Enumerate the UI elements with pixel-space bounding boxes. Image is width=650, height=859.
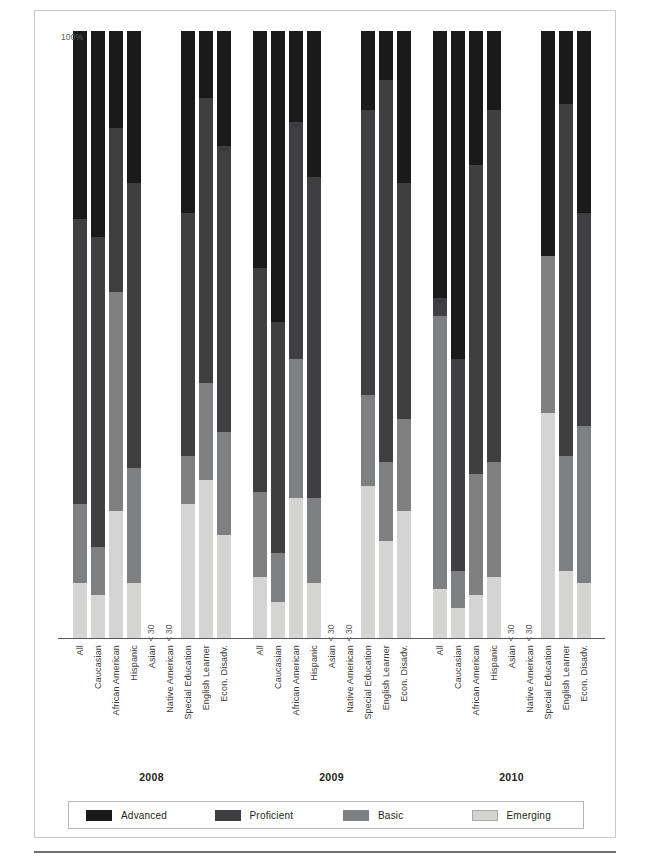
stacked-bar[interactable] [271, 31, 285, 638]
bar-segment-basic[interactable] [271, 553, 285, 602]
stacked-bar[interactable] [487, 31, 501, 638]
bar-segment-proficient[interactable] [307, 177, 321, 499]
bar-segment-proficient[interactable] [181, 213, 195, 456]
legend-item-basic[interactable]: Basic [326, 810, 455, 821]
bar-segment-emerging[interactable] [487, 577, 501, 638]
bar-segment-advanced[interactable] [487, 31, 501, 110]
bar-slot[interactable]: < 30 [325, 31, 339, 638]
bar-segment-emerging[interactable] [451, 608, 465, 638]
bar-segment-advanced[interactable] [361, 31, 375, 110]
bar-segment-proficient[interactable] [487, 110, 501, 462]
bar-segment-proficient[interactable] [289, 122, 303, 359]
bar-segment-basic[interactable] [487, 462, 501, 577]
bar-segment-emerging[interactable] [289, 498, 303, 638]
bar-segment-emerging[interactable] [559, 571, 573, 638]
bar-segment-proficient[interactable] [559, 104, 573, 456]
bar-segment-emerging[interactable] [109, 511, 123, 638]
bar-slot[interactable] [559, 31, 573, 638]
stacked-bar[interactable] [577, 31, 591, 638]
bar-segment-advanced[interactable] [199, 31, 213, 98]
bar-slot[interactable] [91, 31, 105, 638]
bar-segment-basic[interactable] [559, 456, 573, 571]
bar-segment-basic[interactable] [91, 547, 105, 596]
bar-segment-basic[interactable] [577, 426, 591, 584]
bar-slot[interactable] [271, 31, 285, 638]
bar-slot[interactable]: < 30 [163, 31, 177, 638]
bar-segment-basic[interactable] [73, 504, 87, 583]
bar-slot[interactable] [289, 31, 303, 638]
bar-segment-advanced[interactable] [181, 31, 195, 213]
bar-segment-proficient[interactable] [271, 322, 285, 553]
bar-segment-basic[interactable] [217, 432, 231, 535]
bar-segment-basic[interactable] [127, 468, 141, 583]
bar-segment-advanced[interactable] [541, 31, 555, 256]
bar-slot[interactable] [127, 31, 141, 638]
stacked-bar[interactable] [217, 31, 231, 638]
bar-segment-emerging[interactable] [91, 595, 105, 637]
bar-segment-proficient[interactable] [109, 128, 123, 292]
bar-segment-basic[interactable] [451, 571, 465, 607]
stacked-bar[interactable] [559, 31, 573, 638]
bar-segment-emerging[interactable] [361, 486, 375, 638]
bar-slot[interactable] [469, 31, 483, 638]
bar-segment-proficient[interactable] [73, 219, 87, 504]
bar-segment-emerging[interactable] [73, 583, 87, 638]
bar-slot[interactable]: < 30 [523, 31, 537, 638]
bar-segment-basic[interactable] [361, 395, 375, 486]
bar-segment-advanced[interactable] [109, 31, 123, 128]
bar-segment-emerging[interactable] [397, 511, 411, 638]
bar-slot[interactable] [73, 31, 87, 638]
stacked-bar[interactable] [469, 31, 483, 638]
bar-slot[interactable]: < 30 [505, 31, 519, 638]
bar-segment-basic[interactable] [181, 456, 195, 505]
bar-segment-proficient[interactable] [577, 213, 591, 425]
bar-segment-basic[interactable] [253, 492, 267, 577]
bar-segment-basic[interactable] [199, 383, 213, 480]
bar-segment-emerging[interactable] [577, 583, 591, 638]
legend-item-advanced[interactable]: Advanced [69, 810, 198, 821]
bar-segment-advanced[interactable] [433, 31, 447, 298]
bar-slot[interactable] [361, 31, 375, 638]
bar-segment-advanced[interactable] [127, 31, 141, 183]
bar-segment-advanced[interactable] [559, 31, 573, 104]
stacked-bar[interactable] [361, 31, 375, 638]
bar-segment-proficient[interactable] [91, 237, 105, 547]
bar-segment-advanced[interactable] [73, 31, 87, 219]
bar-slot[interactable] [397, 31, 411, 638]
bar-segment-proficient[interactable] [433, 298, 447, 316]
bar-slot[interactable] [487, 31, 501, 638]
bar-segment-advanced[interactable] [271, 31, 285, 322]
bar-segment-advanced[interactable] [91, 31, 105, 237]
bar-segment-proficient[interactable] [379, 80, 393, 462]
stacked-bar[interactable] [433, 31, 447, 638]
stacked-bar[interactable] [307, 31, 321, 638]
bar-slot[interactable] [577, 31, 591, 638]
bar-segment-emerging[interactable] [199, 480, 213, 638]
legend-item-emerging[interactable]: Emerging [455, 810, 584, 821]
bar-slot[interactable] [109, 31, 123, 638]
bar-slot[interactable] [307, 31, 321, 638]
bar-slot[interactable] [217, 31, 231, 638]
bar-segment-emerging[interactable] [217, 535, 231, 638]
bar-segment-emerging[interactable] [253, 577, 267, 638]
stacked-bar[interactable] [541, 31, 555, 638]
stacked-bar[interactable] [181, 31, 195, 638]
bar-segment-basic[interactable] [307, 498, 321, 583]
stacked-bar[interactable] [379, 31, 393, 638]
bar-segment-proficient[interactable] [451, 359, 465, 571]
stacked-bar[interactable] [199, 31, 213, 638]
bar-segment-basic[interactable] [397, 419, 411, 510]
bar-segment-proficient[interactable] [397, 183, 411, 420]
bar-segment-emerging[interactable] [541, 413, 555, 638]
bar-slot[interactable]: < 30 [343, 31, 357, 638]
stacked-bar[interactable] [109, 31, 123, 638]
bar-slot[interactable] [379, 31, 393, 638]
bar-segment-emerging[interactable] [469, 595, 483, 637]
legend-item-proficient[interactable]: Proficient [198, 810, 327, 821]
bar-slot[interactable] [181, 31, 195, 638]
bar-segment-advanced[interactable] [307, 31, 321, 177]
bar-segment-emerging[interactable] [271, 602, 285, 638]
bar-segment-advanced[interactable] [289, 31, 303, 122]
stacked-bar[interactable] [397, 31, 411, 638]
bar-segment-basic[interactable] [289, 359, 303, 499]
